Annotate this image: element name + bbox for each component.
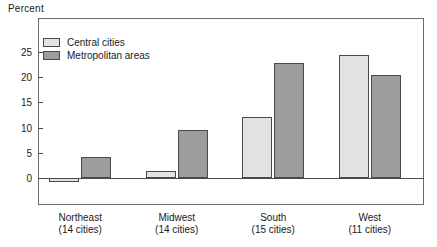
x-axis-label-name: Northeast <box>59 212 102 223</box>
x-axis-label-south: South(15 cities) <box>252 212 295 236</box>
x-axis-label-name: West <box>358 212 381 223</box>
zero-baseline-line <box>38 178 424 179</box>
x-axis-label-midwest: Midwest(14 cities) <box>155 212 198 236</box>
y-axis-tick-label: 20 <box>10 72 32 83</box>
bar-south-metropolitan-areas <box>274 63 304 178</box>
y-axis-tick-mark <box>38 77 43 78</box>
bar-south-central-cities <box>242 117 272 178</box>
bar-midwest-metropolitan-areas <box>178 130 208 178</box>
legend-label-metropolitan-areas: Metropolitan areas <box>67 50 150 61</box>
y-axis-tick-label: 0 <box>10 173 32 184</box>
y-axis-tick-label: 15 <box>10 97 32 108</box>
chart-legend: Central cities Metropolitan areas <box>43 37 150 60</box>
x-axis-label-sublabel: (14 cities) <box>59 224 102 236</box>
legend-swatch-icon-metropolitan-areas <box>43 51 60 60</box>
x-axis-label-name: Midwest <box>158 212 195 223</box>
y-axis-title: Percent <box>8 3 44 14</box>
x-axis-label-northeast: Northeast(14 cities) <box>59 212 102 236</box>
bar-west-central-cities <box>339 55 369 178</box>
bar-west-metropolitan-areas <box>371 75 401 178</box>
x-axis-label-sublabel: (15 cities) <box>252 224 295 236</box>
x-axis-label-sublabel: (14 cities) <box>155 224 198 236</box>
bar-northeast-metropolitan-areas <box>81 157 111 178</box>
bar-midwest-central-cities <box>146 171 176 178</box>
legend-item-metropolitan-areas: Metropolitan areas <box>43 50 150 60</box>
y-axis-tick-label: 5 <box>10 147 32 158</box>
x-axis-label-west: West(11 cities) <box>348 212 391 236</box>
y-axis-tick-mark <box>38 102 43 103</box>
y-axis-tick-mark <box>38 153 43 154</box>
legend-item-central-cities: Central cities <box>43 37 150 47</box>
legend-label-central-cities: Central cities <box>67 37 125 48</box>
bar-northeast-central-cities <box>49 178 79 182</box>
y-axis-tick-mark <box>38 128 43 129</box>
x-axis-label-sublabel: (11 cities) <box>348 224 391 236</box>
legend-swatch-icon-central-cities <box>43 38 60 47</box>
x-axis-label-name: South <box>260 212 286 223</box>
y-axis-tick-label: 25 <box>10 46 32 57</box>
y-axis-tick-label: 10 <box>10 122 32 133</box>
bar-chart: Percent 0510152025 Northeast(14 cities)M… <box>0 0 437 247</box>
